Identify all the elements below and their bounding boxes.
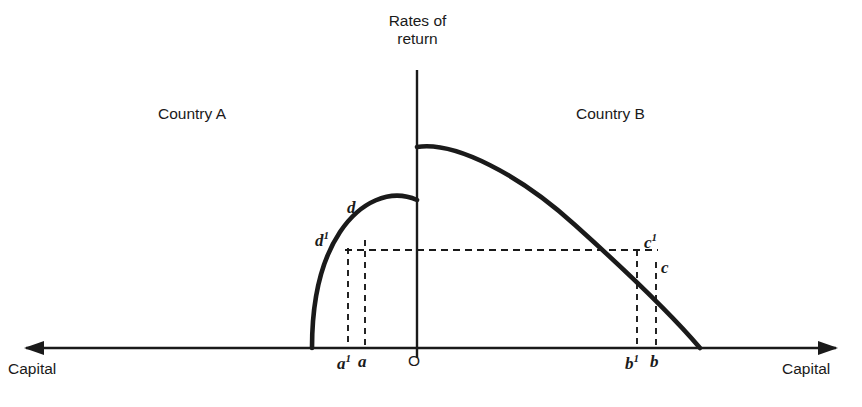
region-label-country-a: Country A	[158, 105, 226, 123]
point-label-d: d	[347, 198, 356, 218]
axis-tick-label-b: b	[650, 352, 659, 372]
point-label-d1: d1	[315, 229, 329, 250]
axis-tick-label-a-text: a	[358, 352, 367, 371]
axis-tick-label-a1-text: a	[337, 354, 346, 373]
axis-tick-label-b1: b1	[625, 352, 639, 373]
axis-tick-label-b1-text: b	[625, 354, 634, 373]
point-label-d1-text: d	[315, 231, 324, 250]
vertical-axis-title: Rates ofreturn	[360, 12, 475, 48]
figure-canvas: Rates ofreturn Country A Country B Capit…	[0, 0, 862, 407]
axis-label-capital-left: Capital	[8, 360, 56, 378]
right-arrowhead-icon	[818, 341, 838, 355]
left-arrowhead-icon	[24, 341, 44, 355]
horizontal-axis-group	[24, 341, 838, 355]
point-label-c1: c1	[644, 231, 657, 252]
country-b-return-curve	[417, 146, 700, 348]
axis-tick-label-a: a	[358, 352, 367, 372]
vertical-axis-title-line2: return	[397, 30, 438, 47]
axis-tick-label-b1-superscript: 1	[634, 352, 640, 364]
origin-label: O	[408, 352, 420, 370]
point-label-d-text: d	[347, 198, 356, 217]
point-label-d1-superscript: 1	[324, 229, 330, 241]
axis-tick-label-b-text: b	[650, 352, 659, 371]
point-label-c1-text: c	[644, 233, 652, 252]
country-a-return-curve	[312, 196, 417, 348]
region-label-country-b: Country B	[576, 105, 645, 123]
point-label-c1-superscript: 1	[652, 231, 658, 243]
capital-flow-diagram-svg	[0, 0, 862, 407]
axis-tick-label-a1-superscript: 1	[346, 352, 352, 364]
axis-tick-label-a1: a1	[337, 352, 351, 373]
point-label-c: c	[661, 258, 669, 278]
axis-label-capital-right: Capital	[782, 360, 830, 378]
vertical-axis-title-line1: Rates of	[389, 12, 447, 29]
point-label-c-text: c	[661, 258, 669, 277]
